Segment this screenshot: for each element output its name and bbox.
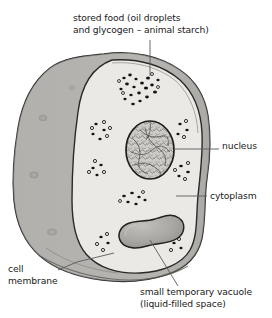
label-vacuole-line1: small temporary vacuole: [140, 286, 252, 298]
label-vacuole-line2: (liquid-filled space): [140, 298, 252, 310]
nucleus-organelle: [126, 121, 174, 179]
label-stored-food-line2: and glycogen – animal starch): [73, 24, 209, 36]
label-cytoplasm: cytoplasm: [210, 190, 257, 202]
label-nucleus: nucleus: [222, 140, 257, 152]
label-cell-membrane-line1: cell: [8, 263, 57, 275]
cell-diagram-page: stored food (oil droplets and glycogen –…: [0, 0, 272, 318]
label-cell-membrane: cell membrane: [8, 263, 57, 286]
label-cell-membrane-line2: membrane: [8, 275, 57, 287]
label-stored-food: stored food (oil droplets and glycogen –…: [73, 12, 209, 35]
label-stored-food-line1: stored food (oil droplets: [73, 12, 209, 24]
label-vacuole: small temporary vacuole (liquid-filled s…: [140, 286, 252, 309]
